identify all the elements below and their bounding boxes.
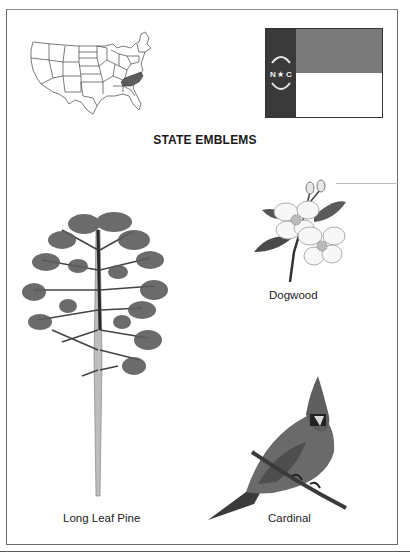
cardinal-bird-icon (206, 372, 356, 522)
state-flag: N ★ C (265, 28, 383, 118)
dogwood-illustration (250, 172, 350, 282)
page-title: STATE EMBLEMS (0, 133, 410, 147)
bottom-rule (0, 551, 410, 552)
flag-letter-n: N (270, 70, 276, 79)
us-map-icon (27, 30, 159, 122)
pine-caption: Long Leaf Pine (63, 512, 140, 524)
long-leaf-pine-icon (22, 210, 172, 500)
svg-text:★: ★ (277, 70, 284, 79)
dogwood-flower-icon (250, 172, 350, 282)
cardinal-illustration (206, 372, 356, 522)
dogwood-caption: Dogwood (269, 289, 318, 301)
nc-flag-icon: N ★ C (266, 29, 382, 117)
cardinal-caption: Cardinal (268, 512, 311, 524)
pine-tree-illustration (22, 210, 172, 500)
flag-letter-c: C (286, 70, 292, 79)
us-map (27, 30, 159, 122)
